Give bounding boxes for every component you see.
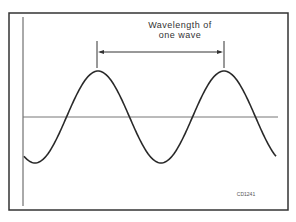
arrowhead-left-icon <box>98 50 104 54</box>
frame <box>9 13 288 210</box>
wavelength-label-line2: one wave <box>120 30 240 40</box>
figure-code: CD1241 <box>232 191 260 197</box>
wavelength-label-line1: Wavelength of <box>120 20 240 30</box>
arrowhead-right-icon <box>217 50 223 54</box>
